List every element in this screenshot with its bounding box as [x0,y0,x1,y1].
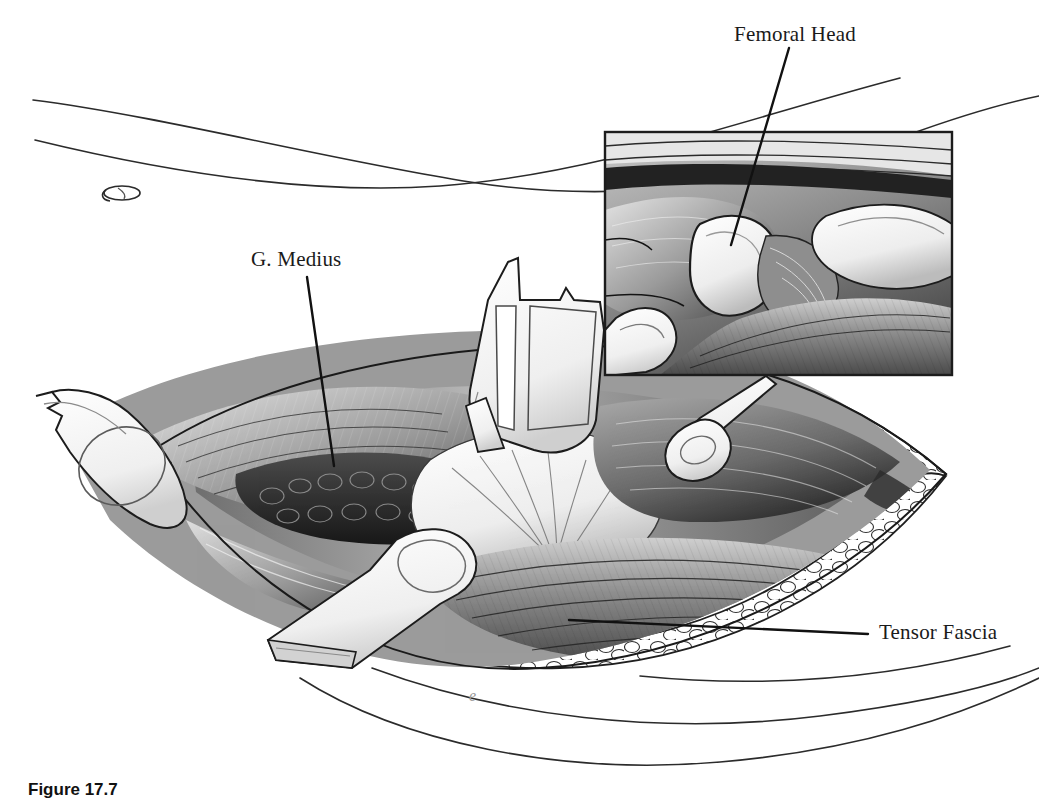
skin-landmark-oval [103,186,140,201]
figure-page: e Femoral Head G. Medius Tensor Fascia F… [0,0,1039,799]
surgical-illustration: e [0,0,1039,799]
label-g-medius: G. Medius [251,247,341,272]
figure-caption: Figure 17.7 [28,780,118,799]
figure-caption-number: Figure 17.7 [28,780,118,799]
label-tensor-fascia: Tensor Fascia [879,620,997,645]
artist-mark: e [469,687,476,704]
retractor-center-double [466,258,604,452]
inset-detail-panel [605,132,952,375]
label-femoral-head: Femoral Head [734,22,856,47]
lower-body-contour-lines [300,646,1039,765]
